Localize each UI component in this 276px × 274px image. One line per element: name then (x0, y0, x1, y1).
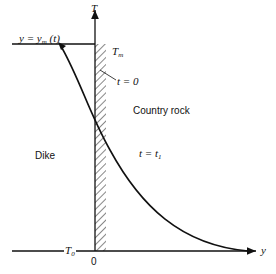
t-zero-label: t = 0 (117, 76, 138, 87)
interface-position-label: y = ym (t) (19, 33, 60, 46)
ambient-temperature-label: T0 (64, 245, 76, 258)
y-axis-label: y (261, 245, 266, 256)
origin-label: 0 (91, 257, 97, 267)
dike-label: Dike (35, 151, 55, 161)
t-axis-label: T (91, 3, 97, 14)
t-one-label: t = t1 (139, 148, 162, 161)
hatched-boundary (95, 44, 106, 251)
country-rock-label: Country rock (133, 106, 190, 116)
melt-temperature-label: Tm (112, 46, 123, 59)
